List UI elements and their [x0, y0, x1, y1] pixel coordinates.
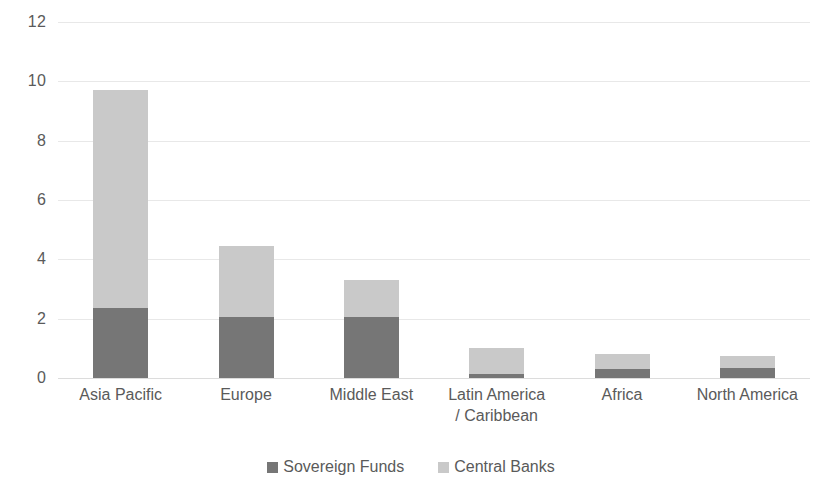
- bar-segment-central-banks: [344, 280, 399, 317]
- legend-item: Central Banks: [438, 458, 555, 476]
- bars-layer: [58, 22, 810, 378]
- x-tick-label: Europe: [183, 384, 308, 405]
- y-tick-label: 10: [2, 73, 46, 89]
- bar-segment-central-banks: [720, 356, 775, 368]
- stacked-bar-chart: 121086420 Asia PacificEuropeMiddle EastL…: [0, 0, 822, 489]
- bar-group: [93, 90, 148, 378]
- y-tick-label: 8: [2, 133, 46, 149]
- y-tick-label: 4: [2, 251, 46, 267]
- bar-segment-sovereign-funds: [720, 368, 775, 378]
- bar-segment-sovereign-funds: [469, 374, 524, 378]
- y-tick-label: 6: [2, 192, 46, 208]
- x-tick-label: Middle East: [309, 384, 434, 405]
- bar-segment-sovereign-funds: [344, 317, 399, 378]
- legend-label: Sovereign Funds: [283, 458, 404, 476]
- y-tick-label: 12: [2, 14, 46, 30]
- y-tick-label: 2: [2, 311, 46, 327]
- chart-legend: Sovereign FundsCentral Banks: [0, 458, 822, 476]
- bar-group: [344, 280, 399, 378]
- x-tick-label: Asia Pacific: [58, 384, 183, 405]
- bar-group: [595, 354, 650, 378]
- legend-swatch-icon: [267, 462, 278, 473]
- legend-swatch-icon: [438, 462, 449, 473]
- bar-segment-central-banks: [595, 354, 650, 369]
- bar-group: [469, 348, 524, 378]
- x-tick-label: North America: [685, 384, 810, 405]
- legend-item: Sovereign Funds: [267, 458, 404, 476]
- x-axis-category-labels: Asia PacificEuropeMiddle EastLatin Ameri…: [58, 384, 810, 444]
- x-tick-label: Latin America / Caribbean: [434, 384, 559, 426]
- legend-label: Central Banks: [454, 458, 555, 476]
- x-tick-label: Africa: [559, 384, 684, 405]
- bar-group: [219, 246, 274, 378]
- gridline-0: [58, 378, 810, 379]
- bar-group: [720, 356, 775, 378]
- bar-segment-sovereign-funds: [93, 308, 148, 378]
- bar-segment-central-banks: [469, 348, 524, 373]
- y-axis-tick-labels: 121086420: [0, 22, 46, 378]
- y-tick-label: 0: [2, 370, 46, 386]
- bar-segment-sovereign-funds: [219, 317, 274, 378]
- bar-segment-central-banks: [219, 246, 274, 317]
- bar-segment-sovereign-funds: [595, 369, 650, 378]
- bar-segment-central-banks: [93, 90, 148, 308]
